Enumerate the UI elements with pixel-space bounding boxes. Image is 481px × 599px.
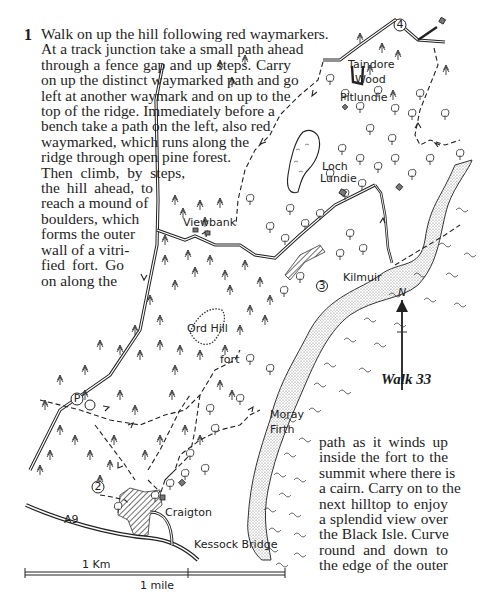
viewpoint-marker — [85, 400, 95, 410]
text-line: the Black Isle. Curve — [319, 526, 448, 541]
svg-text:2: 2 — [95, 480, 102, 493]
text-line: top of the ridge. Immediately before a — [41, 103, 271, 118]
scale-bar — [25, 568, 285, 578]
text-line: At a track junction take a small path ah… — [41, 41, 299, 56]
text-line: a splendid view over — [319, 511, 448, 526]
guidebook-page: P 2 3 4 N Taindore Wood Pitlundie Loch L… — [0, 0, 481, 599]
text-line: forms the outer — [41, 226, 135, 241]
svg-text:Wood: Wood — [355, 73, 386, 86]
text-line: boulders, which — [41, 211, 139, 226]
text-line: Walk on up the hill following red waymar… — [41, 26, 327, 41]
svg-text:Firth: Firth — [270, 423, 294, 436]
text-line: a cairn. Carry on to the — [319, 480, 448, 495]
text-line: summit where there is — [319, 465, 448, 480]
svg-text:Pitlundie: Pitlundie — [340, 91, 388, 104]
text-line: waymarked, which runs along the — [41, 134, 249, 149]
svg-text:Craigton: Craigton — [165, 506, 212, 519]
svg-text:Moray: Moray — [270, 408, 304, 421]
text-line: wall of a vitri- — [41, 242, 129, 257]
svg-text:Taindore: Taindore — [347, 58, 395, 71]
text-line: on along the — [41, 273, 115, 288]
svg-text:1 Km: 1 Km — [82, 558, 110, 571]
text-line: reach a mound of — [41, 195, 145, 210]
svg-text:Ord Hill: Ord Hill — [187, 322, 228, 335]
step-text-top: Walk on up the hill following red waymar… — [41, 26, 327, 288]
svg-text:P: P — [74, 392, 81, 405]
text-line: round and down to — [319, 542, 448, 557]
text-line: on up the distinct waymarked path and go — [41, 72, 286, 87]
text-line: left at another waymark and on up to the — [41, 88, 279, 103]
text-line: inside the fort to the — [319, 449, 448, 464]
svg-text:Kessock Bridge: Kessock Bridge — [194, 538, 278, 551]
step-number: 1 — [24, 26, 32, 44]
text-line: ridge through open pine forest. — [41, 149, 231, 164]
svg-text:Kilmuir: Kilmuir — [343, 271, 382, 284]
svg-text:4: 4 — [397, 18, 404, 31]
svg-text:N: N — [398, 286, 406, 299]
svg-text:fort: fort — [220, 353, 240, 366]
text-line: the hill ahead, to — [41, 180, 153, 195]
text-line: Then climb, by steps, — [41, 165, 185, 180]
text-line: through a fence gap and up steps. Carry — [41, 57, 291, 72]
walk-caption: Walk 33 — [381, 371, 431, 388]
svg-text:A9: A9 — [64, 513, 79, 526]
text-line: path as it winds up — [319, 434, 448, 449]
text-line: the edge of the outer — [319, 557, 448, 572]
text-line: bench take a path on the left, also red — [41, 118, 261, 133]
step-text-bottom: path as it winds up inside the fort to t… — [319, 434, 448, 573]
text-line: next hilltop to enjoy — [319, 496, 448, 511]
svg-text:1 mile: 1 mile — [140, 579, 174, 592]
text-line: fied fort. Go — [41, 257, 124, 272]
